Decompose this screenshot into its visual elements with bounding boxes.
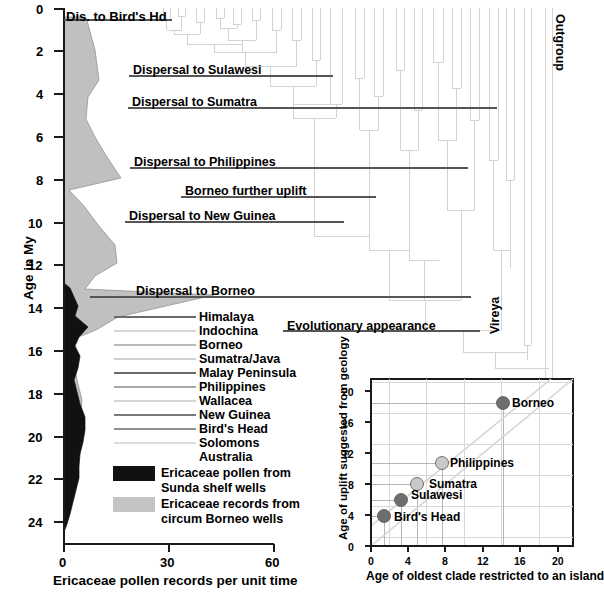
- event-label-dis-to-birds-hd: Dis. to Bird's Hd: [66, 10, 167, 23]
- island-label-birds-head: Bird's Head: [199, 423, 268, 436]
- island-label-malay-peninsula: Malay Peninsula: [199, 367, 296, 380]
- legend-text-sunda-shelf-line1: Ericaceae pollen from: [161, 467, 291, 480]
- island-label-new-guinea: New Guinea: [199, 409, 271, 422]
- island-label-himalaya: Himalaya: [199, 311, 254, 324]
- ytick-2: 2: [36, 45, 43, 58]
- event-label-borneo-further-uplift: Borneo further uplift: [185, 185, 307, 198]
- event-label-dispersal-to-philippines: Dispersal to Philippines: [134, 156, 276, 169]
- ytick-0: 0: [36, 3, 43, 16]
- point-sulawesi: [395, 494, 408, 507]
- xtick-60: 60: [265, 556, 279, 569]
- legend-swatch-circum-borneo: [113, 497, 155, 512]
- ytick-6: 6: [36, 131, 43, 144]
- island-leader-lines: [114, 317, 196, 443]
- inset-xtick-0: 0: [368, 556, 374, 567]
- tree-label-vireya: Vireya: [489, 297, 502, 334]
- legend-text-circum-borneo-line1: Ericaceae records from: [161, 498, 300, 511]
- event-leader-lines: [64, 20, 497, 331]
- island-label-borneo: Borneo: [199, 339, 243, 352]
- ytick-8: 8: [36, 174, 43, 187]
- inset-ytick-0: 0: [348, 542, 354, 553]
- inset-x-axis-title: Age of oldest clade restricted to an isl…: [366, 570, 604, 582]
- ytick-20: 20: [28, 431, 42, 444]
- island-label-indochina: Indochina: [199, 325, 258, 338]
- island-label-wallacea: Wallacea: [199, 395, 252, 408]
- event-label-dispersal-to-sulawesi: Dispersal to Sulawesi: [133, 64, 262, 77]
- ytick-4: 4: [36, 88, 43, 101]
- point-label-philippines: Philippines: [450, 457, 514, 469]
- point-borneo: [497, 397, 510, 410]
- point-label-sumatra: Sumatra: [429, 478, 477, 490]
- inset-xtick-16: 16: [514, 556, 526, 567]
- inset-y-axis-title: Age of uplift suggested from geology: [338, 336, 350, 540]
- island-label-sumatra-java: Sumatra/Java: [199, 353, 280, 366]
- point-birds-head: [378, 510, 391, 523]
- ytick-14: 14: [28, 302, 42, 315]
- island-label-australia: Australia: [199, 451, 253, 464]
- point-philippines: [436, 457, 449, 470]
- legend-swatch-sunda-shelf: [113, 466, 155, 481]
- event-label-dispersal-to-new-guinea: Dispersal to New Guinea: [129, 210, 276, 223]
- point-label-borneo: Borneo: [512, 397, 554, 409]
- inset-xtick-20: 20: [552, 556, 564, 567]
- ytick-10: 10: [28, 217, 42, 230]
- grey-pollen-area: [64, 17, 214, 474]
- x-axis-title: Ericaceae pollen records per unit time: [53, 574, 298, 588]
- island-label-solomons: Solomons: [199, 437, 259, 450]
- xtick-0: 0: [59, 556, 66, 569]
- inset-xtick-12: 12: [477, 556, 489, 567]
- event-label-dispersal-to-sumatra: Dispersal to Sumatra: [132, 96, 257, 109]
- ytick-18: 18: [28, 388, 42, 401]
- tree-label-outgroup: Outgroup: [554, 14, 567, 71]
- event-label-dispersal-to-borneo: Dispersal to Borneo: [136, 285, 255, 298]
- legend-text-sunda-shelf-line2: Sunda shelf wells: [161, 482, 266, 495]
- y-axis-title: Age in My: [22, 236, 36, 300]
- inset-xtick-4: 4: [405, 556, 411, 567]
- ytick-24: 24: [28, 516, 42, 529]
- ytick-22: 22: [28, 473, 42, 486]
- island-label-philippines: Philippines: [199, 381, 266, 394]
- xtick-30: 30: [160, 556, 174, 569]
- ytick-16: 16: [28, 345, 42, 358]
- event-label-evolutionary-appearance: Evolutionary appearance: [287, 320, 436, 333]
- legend-text-circum-borneo-line2: circum Borneo wells: [161, 513, 283, 526]
- inset-xtick-8: 8: [442, 556, 448, 567]
- point-label-birds-head: Bird's Head: [394, 511, 460, 523]
